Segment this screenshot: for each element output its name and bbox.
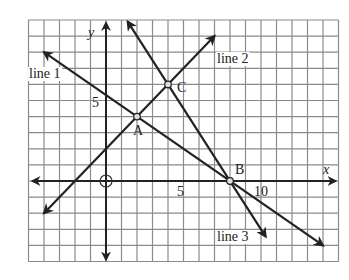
line-1-label: line 1 <box>28 67 62 81</box>
x-axis-label: x <box>323 163 329 177</box>
coordinate-graph <box>0 0 349 280</box>
tick-label-y5: 5 <box>92 96 99 110</box>
point-b <box>227 178 234 185</box>
point-c <box>165 81 172 88</box>
line-2-label: line 2 <box>216 52 250 66</box>
line-2 <box>44 36 215 213</box>
y-axis-label: y <box>88 26 94 40</box>
point-label-b: B <box>235 163 244 177</box>
point-a <box>134 113 141 120</box>
line-3-label: line 3 <box>216 230 250 244</box>
tick-label-x10: 10 <box>254 185 268 199</box>
point-label-c: C <box>177 81 186 95</box>
tick-label-x5: 5 <box>177 185 184 199</box>
point-label-a: A <box>133 124 143 138</box>
